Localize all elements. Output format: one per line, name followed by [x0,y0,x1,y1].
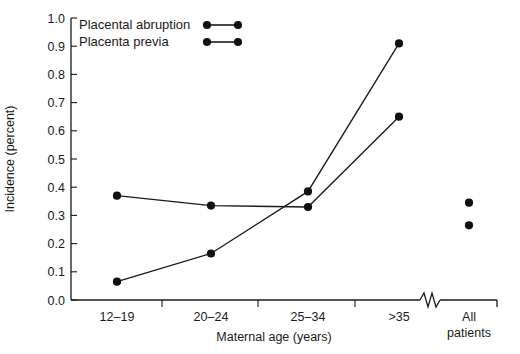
series-line-placental-abruption [117,117,399,207]
legend-label-placenta-previa: Placenta previa [79,34,169,49]
x-category-label-all-patients-line2: patients [447,326,491,340]
all-patients-point-placenta-previa [465,221,473,229]
y-tick-label-10: 1.0 [48,12,65,26]
y-tick-label-4: 0.4 [48,181,65,195]
y-tick-label-2: 0.2 [48,237,65,251]
x-tick-marks [162,300,355,307]
chart-legend: Placental abruption Placenta previa [79,17,242,49]
x-axis-title: Maternal age (years) [216,330,331,344]
y-axis-title: Incidence (percent) [3,105,17,212]
legend-marker-end-placenta-previa [234,38,242,46]
y-tick-label-8: 0.8 [48,68,65,82]
x-category-label-all-patients-line1: All [462,310,476,324]
legend-marker-end-placental-abruption [234,21,242,29]
y-tick-label-6: 0.6 [48,124,65,138]
x-category-label-25-34: 25–34 [291,310,326,324]
y-tick-label-0: 0.0 [48,294,65,308]
y-tick-label-3: 0.3 [48,209,65,223]
x-axis-break-zigzag [420,293,440,307]
y-tick-marks [71,18,77,300]
line-chart: 0.0 0.1 0.2 0.3 0.4 0.5 0.6 0.7 0.8 0.9 … [0,0,520,354]
legend-marker-start-placenta-previa [203,38,211,46]
legend-marker-start-placental-abruption [203,21,211,29]
series-line-placenta-previa [117,43,399,281]
series-markers-placenta-previa [113,39,403,286]
y-tick-label-1: 0.1 [48,265,65,279]
legend-label-placental-abruption: Placental abruption [79,17,190,32]
y-tick-label-7: 0.7 [48,96,65,110]
x-category-label-20-24: 20–24 [194,310,229,324]
x-category-label-12-19: 12–19 [100,310,135,324]
x-category-label-over-35: >35 [388,310,409,324]
series-markers-placental-abruption [113,113,403,211]
y-tick-label-5: 0.5 [48,153,65,167]
chart-figure: 0.0 0.1 0.2 0.3 0.4 0.5 0.6 0.7 0.8 0.9 … [0,0,520,354]
y-tick-label-9: 0.9 [48,40,65,54]
all-patients-point-placental-abruption [465,199,473,207]
